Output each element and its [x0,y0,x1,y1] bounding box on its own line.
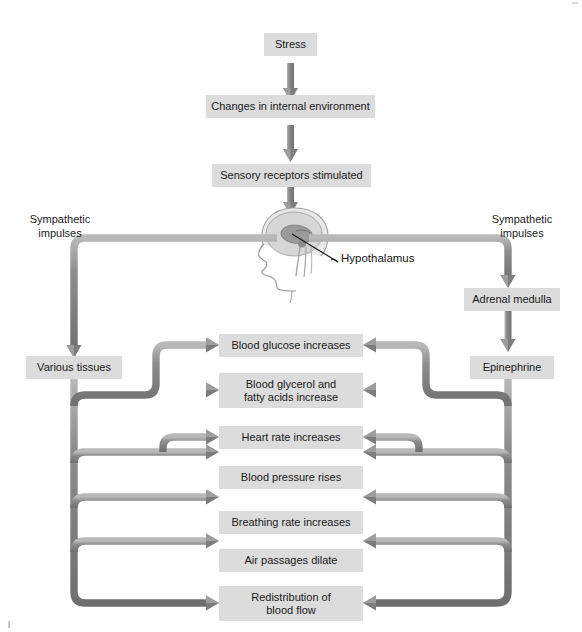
hypothalamus-text: Hypothalamus [341,252,415,264]
node-adrenal-medulla-label: Adrenal medulla [472,293,552,306]
right-branch-air-passages [376,541,508,552]
effect-box-heart-rate[interactable]: Heart rate increases [219,426,363,449]
label-hypothalamus: Hypothalamus [341,252,415,264]
scan-artifact [572,2,578,4]
effect-label-blood-glucose: Blood glucose increases [231,339,350,352]
scan-artifact [8,621,10,628]
node-various-tissues[interactable]: Various tissues [26,356,122,379]
left-branch-blood-pressure [74,452,206,463]
node-various-tissues-label: Various tissues [37,361,111,374]
left-branch-air-passages [74,541,206,552]
left-trunk [74,379,206,603]
node-epinephrine-label: Epinephrine [483,361,542,374]
effect-label-blood-glycerol: Blood glycerol and fatty acids increase [244,378,338,404]
flowchart-canvas: Stress Changes in internal environment S… [0,0,582,632]
arrow-changes-to-sensory [283,125,298,162]
node-stress[interactable]: Stress [264,33,317,56]
effect-box-blood-pressure[interactable]: Blood pressure rises [219,466,363,489]
effect-label-redistribution: Redistribution of blood flow [251,591,331,617]
node-stress-label: Stress [275,38,306,51]
left-impulse-text: Sympathetic impulses [30,213,91,238]
effect-box-blood-glycerol[interactable]: Blood glycerol and fatty acids increase [219,373,363,408]
effect-label-air-passages: Air passages dilate [245,554,338,567]
node-sensory-receptors[interactable]: Sensory receptors stimulated [212,164,371,187]
node-epinephrine[interactable]: Epinephrine [470,356,554,379]
label-sympathetic-impulses-left: Sympathetic impulses [12,200,108,240]
effect-label-breathing-rate: Breathing rate increases [231,516,350,529]
label-sympathetic-impulses-right: Sympathetic impulses [472,200,572,240]
right-impulse-text: Sympathetic impulses [492,213,553,238]
effect-label-heart-rate: Heart rate increases [241,431,340,444]
head-profile-brain-icon [259,208,338,303]
node-changes-label: Changes in internal environment [211,100,369,113]
node-changes-internal-environment[interactable]: Changes in internal environment [206,95,375,118]
arrow-medulla-to-epinephrine [501,311,516,352]
effect-label-blood-pressure: Blood pressure rises [241,471,341,484]
right-trunk [376,379,508,603]
left-branch-breathing-rate [74,497,206,508]
node-sensory-label: Sensory receptors stimulated [220,169,362,182]
right-branch-blood-pressure [376,452,508,463]
effect-box-redistribution[interactable]: Redistribution of blood flow [219,586,363,621]
right-branch-breathing-rate [376,497,508,508]
effect-box-blood-glucose[interactable]: Blood glucose increases [219,334,363,357]
effect-box-air-passages[interactable]: Air passages dilate [219,549,363,572]
effect-box-breathing-rate[interactable]: Breathing rate increases [219,511,363,534]
node-adrenal-medulla[interactable]: Adrenal medulla [464,288,560,311]
